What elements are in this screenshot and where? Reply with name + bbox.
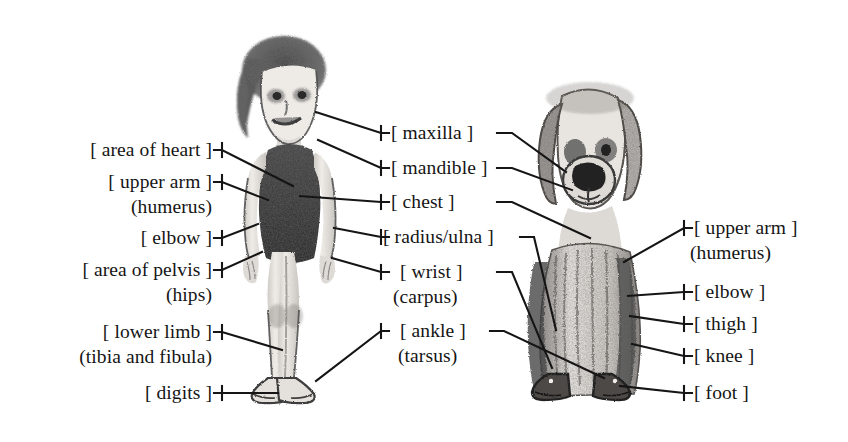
label-lower-limb: [ lower limb ] (tibia and fibula) <box>79 322 212 366</box>
label-digits: [ digits ] <box>145 383 212 403</box>
anatomy-diagram-canvas: [ area of heart ] [ upper arm ] (humerus… <box>0 0 848 442</box>
label-foot: [ foot ] <box>694 383 749 403</box>
label-foot-text: [ foot ] <box>694 383 749 403</box>
label-maxilla-text: [ maxilla ] <box>391 123 473 143</box>
label-radius-ulna: [ radius/ulna ] <box>383 227 494 247</box>
label-upper-arm-dog-sub: (humerus) <box>690 243 798 263</box>
label-wrist: [ wrist ] (carpus) <box>400 262 463 306</box>
label-elbow-child: [ elbow ] <box>141 228 212 248</box>
label-area-of-heart-text: [ area of heart ] <box>90 140 212 160</box>
label-lower-limb-text: [ lower limb ] <box>79 322 212 342</box>
label-ankle-sub: (tarsus) <box>398 346 466 366</box>
label-lower-limb-sub: (tibia and fibula) <box>79 347 212 367</box>
label-ankle: [ ankle ] (tarsus) <box>400 321 466 365</box>
label-upper-arm-child: [ upper arm ] (humerus) <box>108 172 212 216</box>
label-maxilla: [ maxilla ] <box>391 123 473 143</box>
label-digits-text: [ digits ] <box>145 383 212 403</box>
label-chest-text: [ chest ] <box>391 192 455 212</box>
label-ankle-text: [ ankle ] <box>400 321 466 341</box>
label-upper-arm-dog: [ upper arm ] (humerus) <box>694 218 798 262</box>
label-radius-ulna-text: [ radius/ulna ] <box>383 227 494 247</box>
label-upper-arm-child-text: [ upper arm ] <box>108 172 212 192</box>
label-area-of-pelvis: [ area of pelvis ] (hips) <box>82 260 212 304</box>
label-knee-text: [ knee ] <box>694 346 754 366</box>
label-wrist-sub: (carpus) <box>393 287 463 307</box>
label-wrist-text: [ wrist ] <box>400 262 463 282</box>
label-elbow-child-text: [ elbow ] <box>141 228 212 248</box>
label-elbow-dog-text: [ elbow ] <box>694 282 765 302</box>
child-figure <box>237 36 336 403</box>
label-area-of-pelvis-sub: (hips) <box>82 285 212 305</box>
label-mandible-text: [ mandible ] <box>391 158 488 178</box>
label-mandible: [ mandible ] <box>391 158 488 178</box>
label-upper-arm-dog-text: [ upper arm ] <box>694 218 798 238</box>
label-upper-arm-child-sub: (humerus) <box>108 197 212 217</box>
label-area-of-pelvis-text: [ area of pelvis ] <box>82 260 212 280</box>
label-elbow-dog: [ elbow ] <box>694 282 765 302</box>
label-chest: [ chest ] <box>391 192 455 212</box>
label-thigh: [ thigh ] <box>694 314 758 334</box>
label-knee: [ knee ] <box>694 346 754 366</box>
label-area-of-heart: [ area of heart ] <box>90 140 212 160</box>
label-thigh-text: [ thigh ] <box>694 314 758 334</box>
